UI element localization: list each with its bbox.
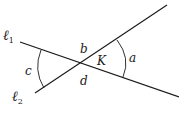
angle-label-d: d [80, 74, 88, 88]
angle-label-c: c [25, 64, 32, 78]
intersection-label-k: K [96, 54, 107, 68]
angle-label-b: b [80, 42, 88, 56]
angle-label-a: a [129, 51, 136, 65]
line-l1-label: ℓ1 [3, 27, 14, 45]
angle-arc-a [117, 40, 126, 77]
angle-arc-c [38, 50, 44, 88]
line-l2-label: ℓ2 [12, 88, 23, 106]
intersecting-lines-diagram: ℓ1 ℓ2 b K a c d [0, 0, 179, 115]
line-l2 [35, 5, 167, 93]
